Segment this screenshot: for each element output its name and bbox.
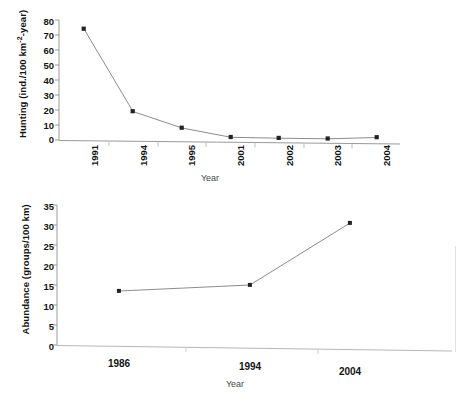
xtick-hunting-2002: 2002 <box>284 145 295 166</box>
data-point-hunting-1991 <box>82 27 86 31</box>
figure-container: Hunting (ind./100 km-2-year) 80 70 60 50… <box>0 0 462 406</box>
plot-area-abundance <box>0 186 462 406</box>
xtick-hunting-2003: 2003 <box>332 145 343 166</box>
plot-area-hunting <box>0 0 462 190</box>
data-line-hunting <box>84 29 377 139</box>
data-point-hunting-2001 <box>229 135 233 139</box>
x-axis-label-abundance: Year <box>175 379 295 389</box>
xtick-hunting-2004: 2004 <box>381 145 392 166</box>
data-point-abundance-1986 <box>117 289 121 293</box>
xtick-abundance-1986: 1986 <box>89 358 149 369</box>
data-point-abundance-1994 <box>248 283 252 287</box>
x-axis-line-hunting <box>59 141 400 145</box>
xtick-hunting-2001: 2001 <box>235 145 246 166</box>
scan-artifact-line <box>455 246 456 352</box>
x-axis-label-hunting: Year <box>150 173 270 183</box>
y-axis-label-abundance: Abundance (groups/100 km) <box>20 205 31 335</box>
x-axis-line-abundance <box>57 346 452 352</box>
xtick-abundance-2004: 2004 <box>320 366 380 377</box>
xtick-hunting-1995: 1995 <box>186 145 197 166</box>
data-line-abundance <box>119 223 350 291</box>
chart-panel-hunting: Hunting (ind./100 km-2-year) 80 70 60 50… <box>0 0 462 190</box>
data-point-abundance-2004 <box>348 221 352 225</box>
data-point-hunting-2003 <box>326 136 330 140</box>
data-point-hunting-1995 <box>180 126 184 130</box>
xtick-hunting-1994: 1994 <box>138 145 149 166</box>
chart-panel-abundance: 35 30 25 20 15 10 5 0 <box>0 186 462 406</box>
data-point-hunting-2004 <box>375 135 379 139</box>
xtick-abundance-1994: 1994 <box>220 361 280 372</box>
data-point-hunting-2002 <box>277 136 281 140</box>
data-point-hunting-1994 <box>131 109 135 113</box>
xtick-hunting-1991: 1991 <box>89 145 100 166</box>
